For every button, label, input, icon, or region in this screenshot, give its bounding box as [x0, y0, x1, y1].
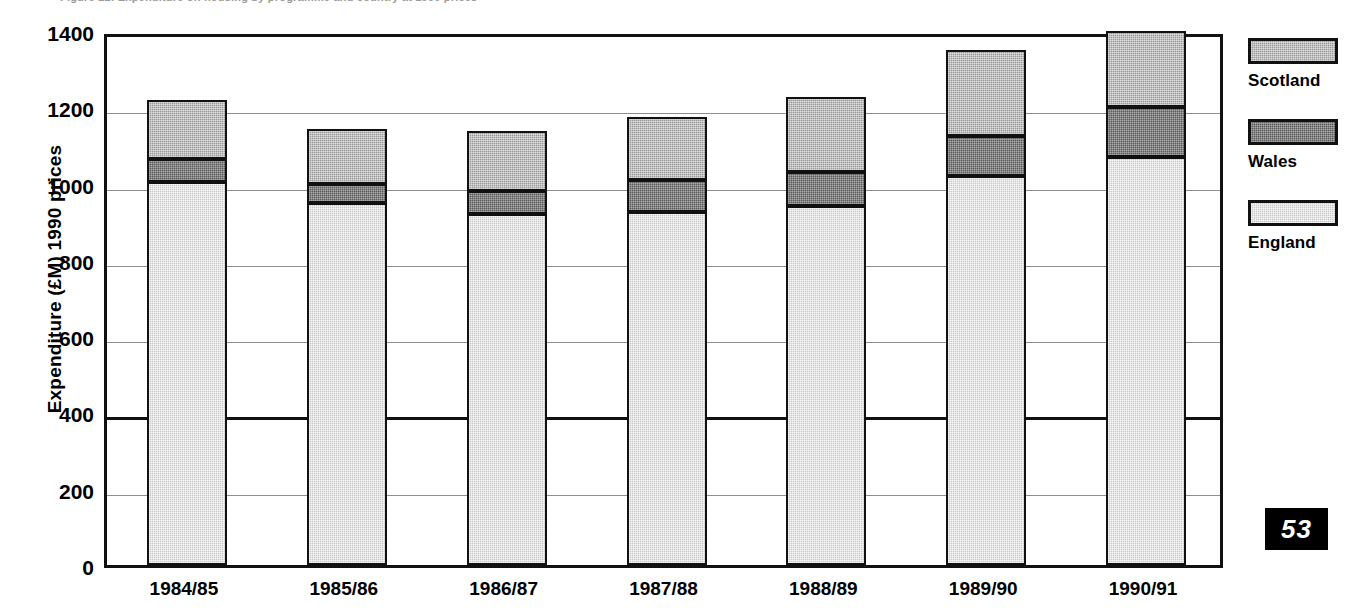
bar-segment-scotland	[147, 100, 227, 158]
legend-swatch-wales	[1248, 119, 1338, 145]
gridline-1200	[107, 113, 1220, 114]
x-tick-label-1989-90: 1989/90	[913, 578, 1053, 600]
y-tick-label-200: 200	[24, 481, 94, 502]
legend-label-wales: Wales	[1248, 152, 1340, 172]
bar-1986-87	[467, 131, 547, 565]
x-tick-label-1984-85: 1984/85	[114, 578, 254, 600]
bar-segment-england	[946, 176, 1026, 565]
bar-1990-91	[1106, 31, 1186, 565]
bar-segment-scotland	[946, 50, 1026, 136]
chart-legend: ScotlandWalesEngland	[1248, 38, 1340, 281]
y-tick-label-1000: 1000	[24, 176, 94, 197]
y-tick-label-1200: 1200	[24, 99, 94, 120]
bar-segment-scotland	[627, 117, 707, 180]
x-tick-label-1987-88: 1987/88	[594, 578, 734, 600]
bar-segment-scotland	[307, 129, 387, 183]
bar-segment-wales	[786, 172, 866, 206]
page-number-badge: 53	[1265, 508, 1328, 550]
bar-segment-england	[627, 212, 707, 565]
bar-segment-england	[307, 203, 387, 565]
bar-1989-90	[946, 50, 1026, 565]
bar-segment-england	[1106, 157, 1186, 565]
plot-area	[104, 34, 1223, 568]
bar-1987-88	[627, 117, 707, 565]
x-tick-label-1985-86: 1985/86	[274, 578, 414, 600]
figure-container: Figure 12: Expenditure on housing by pro…	[0, 0, 1346, 611]
y-tick-label-600: 600	[24, 328, 94, 349]
figure-caption-sliver: Figure 12: Expenditure on housing by pro…	[60, 0, 680, 3]
bar-segment-wales	[1106, 107, 1186, 157]
x-tick-label-1990-91: 1990/91	[1073, 578, 1213, 600]
bar-segment-scotland	[786, 97, 866, 173]
bar-segment-scotland	[467, 131, 547, 191]
legend-entry-england: England	[1248, 200, 1340, 253]
y-axis-ticks: 0200400600800100012001400	[18, 0, 94, 611]
bar-segment-wales	[147, 159, 227, 182]
legend-swatch-england	[1248, 200, 1338, 226]
legend-label-scotland: Scotland	[1248, 71, 1340, 91]
y-tick-label-400: 400	[24, 404, 94, 425]
bar-1985-86	[307, 129, 387, 565]
y-tick-label-0: 0	[24, 557, 94, 578]
legend-label-england: England	[1248, 233, 1340, 253]
y-tick-label-1400: 1400	[24, 23, 94, 44]
y-tick-label-800: 800	[24, 252, 94, 273]
legend-entry-scotland: Scotland	[1248, 38, 1340, 91]
legend-entry-wales: Wales	[1248, 119, 1340, 172]
bar-segment-england	[147, 182, 227, 565]
bar-segment-wales	[307, 184, 387, 204]
legend-swatch-scotland	[1248, 38, 1338, 64]
bar-segment-wales	[946, 136, 1026, 176]
bar-segment-wales	[627, 180, 707, 212]
bar-segment-england	[786, 206, 866, 565]
bar-segment-scotland	[1106, 31, 1186, 107]
bar-segment-england	[467, 214, 547, 565]
bar-1984-85	[147, 100, 227, 565]
bar-1988-89	[786, 97, 866, 565]
bar-segment-wales	[467, 191, 547, 214]
x-tick-label-1988-89: 1988/89	[753, 578, 893, 600]
x-tick-label-1986-87: 1986/87	[434, 578, 574, 600]
